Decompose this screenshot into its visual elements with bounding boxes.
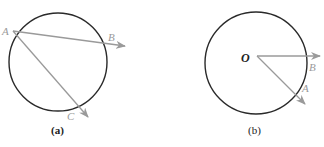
label-o: O: [241, 51, 250, 65]
diagram-canvas: A B C (a) O B A (b): [0, 0, 324, 147]
arrow-ac: [13, 31, 88, 117]
label-b2: B: [309, 61, 316, 73]
label-a2: A: [301, 82, 309, 94]
label-c: C: [67, 110, 75, 122]
label-b: B: [108, 31, 115, 43]
caption-a: (a): [51, 124, 64, 137]
panel-a: A B C (a): [1, 13, 125, 137]
label-a: A: [1, 25, 9, 37]
circle-a: [9, 13, 107, 111]
circle-b: [205, 12, 307, 114]
panel-b: O B A (b): [205, 12, 320, 137]
arrow-oa: [257, 56, 305, 104]
caption-b: (b): [248, 124, 261, 137]
